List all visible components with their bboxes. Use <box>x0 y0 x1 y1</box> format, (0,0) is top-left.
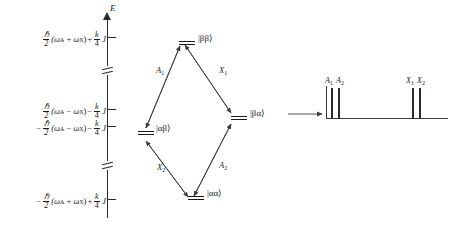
spectrum-peak-label-A1: A1 <box>325 76 333 86</box>
spectrum-peak-X1 <box>412 88 414 119</box>
spectrum-peak-label-X1: X1 <box>406 76 414 86</box>
spectrum-peak-label-A2: A2 <box>336 76 344 86</box>
spectrum-peak-label-X2: X2 <box>417 76 425 86</box>
arrow-X2-reverse <box>146 141 188 197</box>
spectrum-peak-A2 <box>338 88 340 119</box>
spectrum-peak-A1 <box>331 88 333 119</box>
spectrum-left-axis <box>326 86 327 119</box>
spectrum-baseline <box>326 118 448 119</box>
arrow-A1-reverse <box>146 46 180 128</box>
arrow-X1-reverse <box>185 45 231 113</box>
arrow-A2-reverse <box>194 124 231 196</box>
spectrum-panel: A1 A2 X1 X2 <box>318 0 453 227</box>
figure-canvas: E ℏ 2 (ωA + ωX) + k 4 J <box>0 0 453 227</box>
spectrum-peak-X2 <box>419 88 421 119</box>
